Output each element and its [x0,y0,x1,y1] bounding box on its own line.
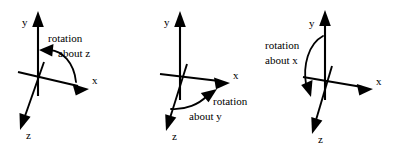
z-axis-arrowhead [165,114,176,131]
z-axis-panel3 [311,66,332,134]
rotation-caption-line1: rotation [265,39,300,51]
x-axis-label: x [92,74,98,86]
rotation-caption-line1: rotation [48,32,83,44]
x-axis-arrowhead [357,84,373,96]
z-axis-label: z [26,129,31,141]
diagram-canvas: y x z rotation about z [0,0,400,150]
y-axis-panel1 [32,11,44,96]
panel-rotation-about-x: y x z rotation about x [265,10,382,145]
panel-rotation-about-z: y x z rotation about z [18,11,98,141]
x-axis-arrowhead [214,78,230,90]
rotation-caption-line2: about y [189,110,222,122]
rotation-caption-line1: rotation [213,95,248,107]
y-axis-arrowhead [32,11,44,27]
x-axis-panel1 [18,72,89,96]
x-axis-panel2 [160,74,230,89]
rotation-arc-arrowhead [301,80,312,97]
rotation-caption-line2: about z [58,47,90,59]
rotation-caption-line2: about x [265,54,298,66]
z-axis-arrowhead [311,117,322,134]
y-axis-label: y [309,17,315,29]
rotation-arc-arrowhead [39,44,54,57]
y-axis-label: y [22,16,28,28]
x-axis-label: x [233,69,239,81]
y-axis-arrowhead [174,11,186,27]
y-axis-label: y [164,16,170,28]
panel-rotation-about-y: y x z rotation about y [160,11,248,142]
z-axis-label: z [318,133,323,145]
z-axis-arrowhead [20,113,31,130]
z-axis-label: z [172,130,177,142]
y-axis-arrowhead [319,10,331,26]
rotation-axes-diagram: y x z rotation about z [0,0,400,150]
rotation-arc-about-x [301,36,323,97]
x-axis-panel3 [303,77,373,96]
x-axis-arrowhead [73,84,90,96]
x-axis-label: x [376,75,382,87]
